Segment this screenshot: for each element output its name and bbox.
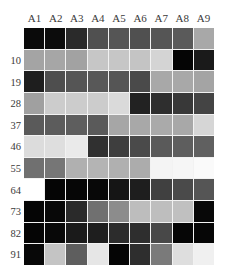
row-label: 64 (0, 179, 21, 201)
column-header-a8: A8 (172, 10, 193, 26)
heatmap-cell (88, 201, 108, 222)
heatmap-cell (24, 158, 44, 179)
row-label: 55 (0, 157, 21, 179)
heatmap-cell (151, 201, 171, 222)
heatmap-cell (109, 71, 129, 92)
heatmap-chart: A1 A2 A3 A4 A5 A6 A7 A8 A9 10 19 28 37 4… (0, 0, 225, 277)
heatmap-cell (45, 136, 65, 157)
heatmap-cell (66, 136, 86, 157)
heatmap-cell (173, 136, 193, 157)
column-header-a3: A3 (66, 10, 87, 26)
heatmap-cell (151, 93, 171, 114)
heatmap-cell (88, 244, 108, 265)
heatmap-cell (66, 115, 86, 136)
heatmap-cell (45, 244, 65, 265)
heatmap-cell (194, 28, 214, 49)
heatmap-cell (151, 179, 171, 200)
heatmap-cell (151, 71, 171, 92)
heatmap-cell (45, 71, 65, 92)
row-label: 73 (0, 200, 21, 222)
heatmap-cell (24, 28, 44, 49)
heatmap-cell (194, 115, 214, 136)
heatmap-cell (109, 136, 129, 157)
heatmap-cell (130, 244, 150, 265)
heatmap-cell (151, 28, 171, 49)
row-label: 91 (0, 243, 21, 265)
heatmap-cell (130, 93, 150, 114)
heatmap-cell (66, 28, 86, 49)
heatmap-cell (109, 158, 129, 179)
column-header-a9: A9 (193, 10, 214, 26)
heatmap-cell (109, 244, 129, 265)
heatmap-cell (173, 115, 193, 136)
heatmap-cell (88, 158, 108, 179)
row-label (0, 28, 21, 50)
heatmap-cell (130, 179, 150, 200)
heatmap-cell (130, 223, 150, 244)
heatmap-cell (194, 158, 214, 179)
heatmap-cell (66, 244, 86, 265)
heatmap-cell (24, 93, 44, 114)
column-header-a4: A4 (87, 10, 108, 26)
heatmap-cell (88, 115, 108, 136)
heatmap-cell (109, 201, 129, 222)
heatmap-cell (173, 50, 193, 71)
heatmap-cell (24, 50, 44, 71)
heatmap-cell (173, 244, 193, 265)
heatmap-cell (45, 28, 65, 49)
heatmap-cell (130, 50, 150, 71)
heatmap-cell (194, 223, 214, 244)
heatmap-cell (173, 93, 193, 114)
heatmap-cell (130, 28, 150, 49)
heatmap-cell (88, 179, 108, 200)
heatmap-cell (194, 71, 214, 92)
heatmap-cell (130, 115, 150, 136)
heatmap-cell (109, 28, 129, 49)
column-header-a7: A7 (151, 10, 172, 26)
heatmap-cell (88, 71, 108, 92)
heatmap-cell (66, 223, 86, 244)
column-header-a6: A6 (130, 10, 151, 26)
heatmap-cell (24, 179, 44, 200)
heatmap-cell (109, 115, 129, 136)
heatmap-cell (45, 179, 65, 200)
row-label: 28 (0, 93, 21, 115)
heatmap-cell (66, 93, 86, 114)
heatmap-cell (88, 93, 108, 114)
heatmap-cell (24, 71, 44, 92)
heatmap-cell (151, 136, 171, 157)
row-label: 19 (0, 71, 21, 93)
heatmap-cell (151, 158, 171, 179)
row-labels: 10 19 28 37 46 55 64 73 82 91 (0, 28, 21, 265)
heatmap-cell (173, 179, 193, 200)
heatmap-cell (151, 223, 171, 244)
heatmap-cell (109, 223, 129, 244)
heatmap-cell (194, 50, 214, 71)
heatmap-cell (66, 50, 86, 71)
heatmap-cell (45, 50, 65, 71)
heatmap-cell (130, 71, 150, 92)
row-label: 46 (0, 136, 21, 158)
heatmap-cell (130, 158, 150, 179)
heatmap-cell (24, 223, 44, 244)
heatmap-cell (88, 50, 108, 71)
heatmap-cell (66, 158, 86, 179)
heatmap-cell (151, 115, 171, 136)
heatmap-cell (66, 71, 86, 92)
heatmap-cell (151, 244, 171, 265)
heatmap-cell (45, 223, 65, 244)
heatmap-cell (130, 136, 150, 157)
heatmap-cell (66, 201, 86, 222)
heatmap-cell (24, 136, 44, 157)
heatmap-cell (130, 201, 150, 222)
heatmap-cell (45, 158, 65, 179)
heatmap-cell (109, 179, 129, 200)
heatmap-cell (109, 93, 129, 114)
column-header-a5: A5 (108, 10, 129, 26)
heatmap-grid (24, 28, 214, 265)
heatmap-cell (194, 93, 214, 114)
heatmap-cell (173, 223, 193, 244)
heatmap-cell (173, 28, 193, 49)
column-headers: A1 A2 A3 A4 A5 A6 A7 A8 A9 (24, 10, 214, 26)
heatmap-cell (88, 136, 108, 157)
